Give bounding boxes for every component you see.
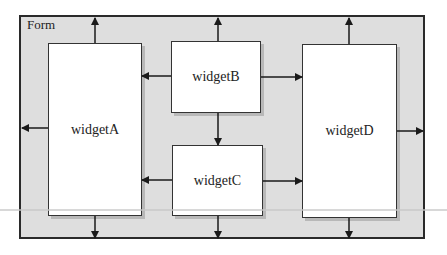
scan-line-artifact	[0, 209, 447, 211]
arrows-layer	[0, 0, 447, 255]
